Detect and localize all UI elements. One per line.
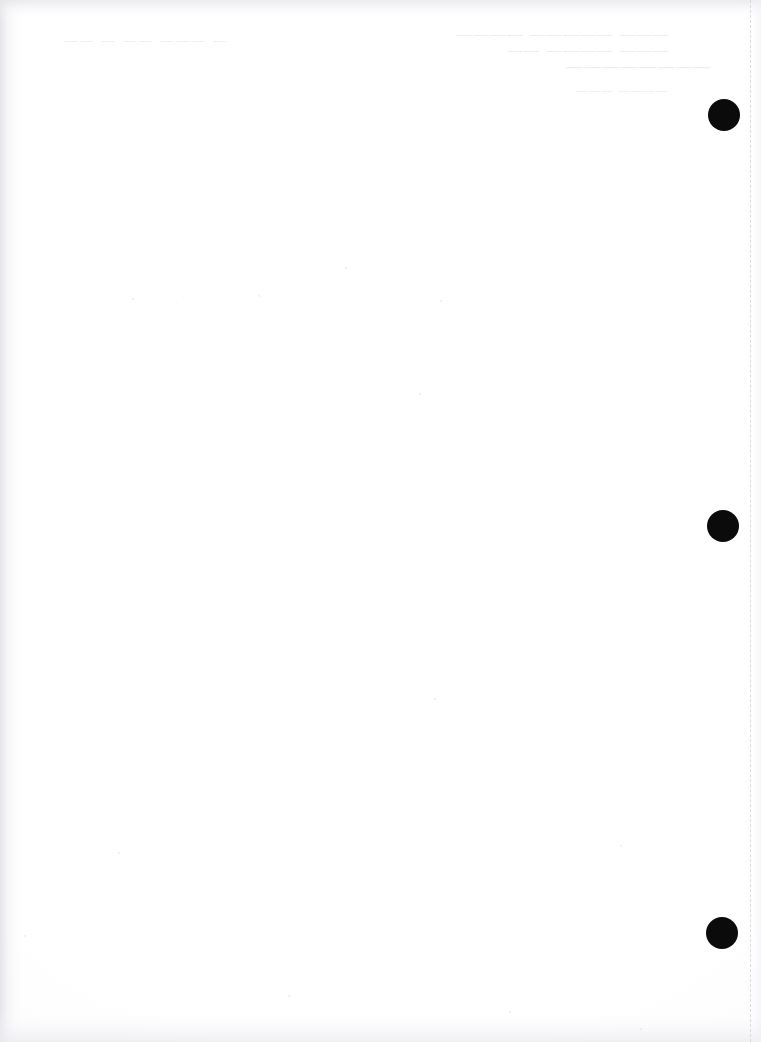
paper-speck (509, 1011, 511, 1013)
paper-speck (118, 852, 120, 854)
paper-speck (288, 995, 290, 997)
ghost-line: ——— ———— —— (455, 42, 669, 58)
paper-speck (345, 267, 347, 269)
scan-shadow-left (0, 0, 26, 1042)
mark-top-icon (708, 99, 740, 131)
paper-speck (132, 298, 134, 300)
paper-speck (419, 393, 421, 395)
ghost-line: ———— ——— (575, 85, 667, 97)
paper-tint (0, 0, 761, 1042)
ghost-block-lower: ———— ——— (575, 85, 667, 97)
paper-speck (434, 698, 436, 700)
scan-shadow-bottom (0, 1008, 761, 1042)
mark-bottom-icon (706, 917, 738, 949)
paper-speck (24, 935, 26, 937)
ghost-block-left: — ——— —— — —— (62, 34, 226, 48)
ghost-line: ——— ————— ———— (455, 26, 669, 42)
paper-speck (640, 1028, 642, 1030)
perforation-line (750, 0, 751, 1042)
ghost-block-upper-right: ———————— (565, 58, 711, 76)
scan-shadow-top (0, 0, 761, 22)
mark-middle-icon (707, 510, 739, 542)
paper-speck (260, 297, 261, 298)
ghost-block-center: ——— ————— ——————— ———— —— (455, 26, 669, 58)
scanned-page: — ——— —— — ————— ————— ——————— ———— ————… (0, 0, 761, 1042)
ghost-line: ———————— (565, 58, 711, 76)
ghost-line: — ——— —— — —— (62, 34, 226, 48)
paper-speck (440, 300, 442, 302)
paper-speck (258, 295, 260, 297)
paper-speck (183, 297, 184, 298)
paper-speck (620, 845, 622, 847)
